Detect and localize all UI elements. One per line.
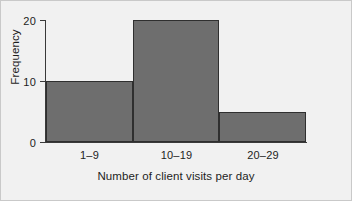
- y-tick-label-10: 10: [23, 76, 36, 88]
- y-tick-mark-0: [40, 142, 45, 143]
- y-tick-mark-10: [40, 81, 45, 82]
- bar-20-29: [219, 112, 306, 143]
- x-category-label-1: 1–9: [46, 149, 133, 161]
- x-axis-title: Number of client visits per day: [1, 170, 351, 182]
- histogram-figure: 0 10 20 1–9 10–19 20–29 Number of client…: [0, 0, 352, 201]
- y-tick-label-0-wrap: 0: [4, 136, 36, 148]
- y-tick-label-20: 20: [23, 15, 36, 27]
- bar-1-9: [46, 81, 133, 142]
- x-category-label-3: 20–29: [220, 149, 306, 161]
- y-tick-mark-20: [40, 20, 45, 21]
- y-axis-title: Frequency: [9, 17, 21, 97]
- y-tick-label-0: 0: [30, 137, 36, 149]
- bar-10-19: [133, 20, 219, 142]
- x-category-label-2: 10–19: [133, 149, 220, 161]
- x-axis-line: [45, 142, 307, 143]
- plot-area: [46, 20, 306, 142]
